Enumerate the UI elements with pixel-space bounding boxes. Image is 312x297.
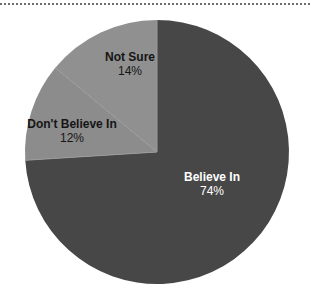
- pie-svg: [0, 0, 312, 297]
- pie-canvas: [0, 0, 312, 297]
- pie-chart: Not Sure 14% Don't Believe In 12% Believ…: [0, 0, 312, 297]
